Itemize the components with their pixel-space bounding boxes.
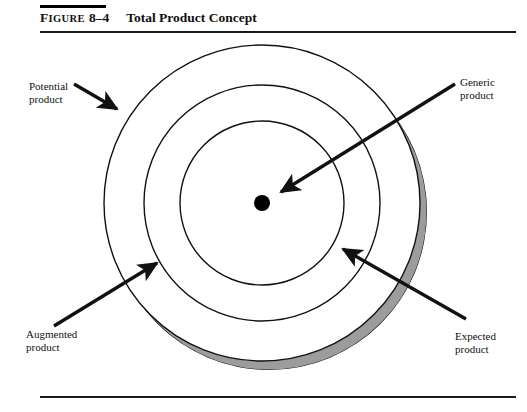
center-dot-generic-product [254, 195, 270, 211]
callout-augmented-product: Augmented product [26, 328, 77, 353]
callout-expected-line2: product [455, 343, 496, 356]
figure-page: FIGURE 8–4 Total Product Concept [0, 0, 527, 412]
callout-potential-line1: Potential [29, 80, 68, 93]
callout-expected-line1: Expected [455, 330, 496, 343]
callout-potential-line2: product [29, 93, 68, 106]
figure-bottom-rule [40, 396, 516, 398]
callout-generic-line2: product [460, 89, 495, 102]
callout-potential-product: Potential product [29, 80, 68, 105]
callout-generic-product: Generic product [460, 76, 495, 101]
callout-augmented-line1: Augmented [26, 328, 77, 341]
callout-expected-product: Expected product [455, 330, 496, 355]
total-product-concept-diagram [0, 0, 527, 412]
callout-augmented-line2: product [26, 341, 77, 354]
callout-generic-line1: Generic [460, 76, 495, 89]
arrow-potential-product [74, 84, 117, 109]
